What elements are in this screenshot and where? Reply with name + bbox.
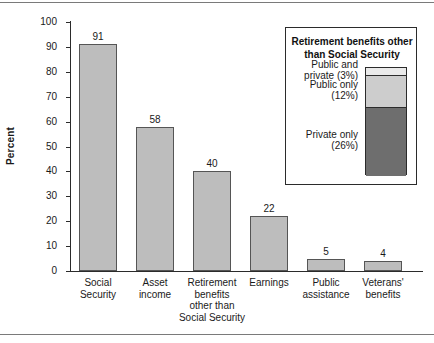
y-axis-tick-label: 70 xyxy=(46,92,57,102)
x-axis-label-line: benefits xyxy=(194,289,229,300)
y-axis-tick: 80 xyxy=(66,72,71,73)
legend-item-label: Private only(26%) xyxy=(286,129,358,152)
legend-item-label-line-2: (26%) xyxy=(331,140,358,151)
y-axis-tick: 10 xyxy=(66,246,71,247)
bar: 91 xyxy=(79,44,117,271)
y-axis-tick: 20 xyxy=(66,221,71,222)
y-axis-tick: 30 xyxy=(66,196,71,197)
bar-value-label: 91 xyxy=(92,32,103,42)
x-axis-label-line: Asset xyxy=(142,277,167,288)
y-axis-tick-label: 50 xyxy=(46,142,57,152)
y-axis-title: Percent xyxy=(5,127,16,165)
y-axis-tick: 0 xyxy=(66,271,71,272)
legend-swatch-stack xyxy=(365,67,407,175)
legend-swatch xyxy=(366,68,406,76)
legend-box: Retirement benefits other than Social Se… xyxy=(285,27,417,185)
y-axis-tick-label: 20 xyxy=(46,216,57,226)
bar: 5 xyxy=(307,259,345,271)
x-axis-label-line: Social xyxy=(84,277,111,288)
x-axis-label-line: other than xyxy=(189,300,234,311)
bar: 58 xyxy=(136,127,174,271)
legend-swatch xyxy=(366,108,406,176)
bar-value-label: 58 xyxy=(149,115,160,125)
bar: 40 xyxy=(193,171,231,271)
y-axis-tick-label: 80 xyxy=(46,67,57,77)
bar-value-label: 22 xyxy=(263,204,274,214)
legend-title: Retirement benefits other than Social Se… xyxy=(291,36,413,61)
y-axis-tick-label: 90 xyxy=(46,42,57,52)
y-axis-tick-label: 0 xyxy=(51,266,57,276)
legend-item-label: Public only(12%) xyxy=(286,79,358,102)
y-axis-tick-label: 40 xyxy=(46,166,57,176)
y-axis-tick: 40 xyxy=(66,171,71,172)
x-axis-label-line: Social Security xyxy=(179,312,245,323)
legend-swatch xyxy=(366,76,406,108)
legend-item-label-line-1: Public only xyxy=(310,79,358,90)
x-axis-label-line: benefits xyxy=(365,289,400,300)
legend-item-label-line-1: Public and xyxy=(311,59,358,70)
x-axis-label-line: Veterans' xyxy=(362,277,403,288)
x-axis-label-line: Public xyxy=(312,277,339,288)
y-axis-tick: 100 xyxy=(66,22,71,23)
bar-value-label: 5 xyxy=(323,247,329,257)
bar: 22 xyxy=(250,216,288,271)
y-axis-tick-label: 30 xyxy=(46,191,57,201)
legend-title-line-2: than Social Security xyxy=(304,49,400,60)
y-axis-tick: 50 xyxy=(66,147,71,148)
top-divider-rule xyxy=(0,2,434,3)
bottom-divider-rule xyxy=(0,334,434,335)
legend-title-line-1: Retirement benefits other xyxy=(291,36,412,47)
y-axis-tick-label: 10 xyxy=(46,241,57,251)
x-axis-line xyxy=(70,271,423,272)
y-axis-tick-label: 100 xyxy=(40,17,57,27)
y-axis-tick-label: 60 xyxy=(46,117,57,127)
legend-item-label-line-1: Private only xyxy=(306,129,358,140)
legend-item-label-line-2: (12%) xyxy=(331,90,358,101)
y-axis-tick: 60 xyxy=(66,122,71,123)
y-axis-tick: 70 xyxy=(66,97,71,98)
bar: 4 xyxy=(364,261,402,271)
y-axis-tick: 90 xyxy=(66,47,71,48)
bar-value-label: 4 xyxy=(380,249,386,259)
x-axis-category-label: Veterans'benefits xyxy=(338,277,428,300)
bar-value-label: 40 xyxy=(206,159,217,169)
